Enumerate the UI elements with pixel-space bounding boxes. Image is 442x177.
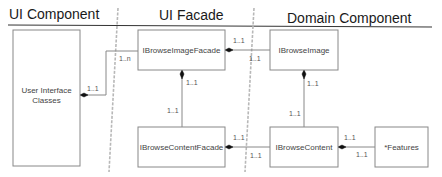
header-ui-facade: UI Facade — [159, 7, 224, 23]
node-label: *Features — [384, 143, 419, 152]
multiplicity-label: 1..1 — [233, 134, 245, 141]
multiplicity-label: 1..1 — [87, 85, 99, 92]
multiplicity-label: 1..1 — [344, 134, 356, 141]
layer-divider-left — [109, 8, 118, 172]
node-ibrowse-image[interactable]: IBrowseImage — [270, 30, 338, 70]
header-ui-component: UI Component — [9, 6, 99, 22]
multiplicity-label: 1..1 — [289, 110, 301, 117]
multiplicity-label: 1..1 — [356, 151, 368, 158]
node-ibrowse-content[interactable]: IBrowseContent — [270, 127, 338, 167]
node-ibrowse-image-facade[interactable]: IBrowseImageFacade — [138, 30, 225, 70]
multiplicity-label: 1..1 — [249, 55, 261, 62]
multiplicity-label: 1..n — [119, 55, 131, 62]
multiplicity-label: 1..1 — [233, 37, 245, 44]
node-label-line2: Classes — [32, 96, 60, 105]
multiplicity-label: 1..1 — [250, 152, 262, 159]
multiplicity-label: 1..1 — [186, 79, 198, 86]
node-user-interface-classes[interactable]: User Interface Classes — [13, 30, 80, 166]
composition-diamond-icon — [180, 70, 184, 79]
composition-diamond-icon — [80, 93, 88, 97]
node-ibrowse-content-facade[interactable]: IBrowseContentFacade — [138, 127, 225, 167]
multiplicity-label: 1..1 — [307, 80, 319, 87]
multiplicity-label: 1..1 — [167, 107, 179, 114]
composition-diamond-icon — [225, 145, 233, 149]
composition-diamond-icon — [302, 70, 306, 79]
node-features[interactable]: *Features — [375, 127, 428, 167]
node-label: IBrowseContentFacade — [140, 143, 224, 152]
node-label: IBrowseImage — [278, 46, 330, 55]
node-label: IBrowseImageFacade — [143, 46, 221, 55]
node-label-line1: User Interface — [21, 86, 72, 95]
composition-diamond-icon — [338, 145, 346, 149]
node-label: IBrowseContent — [276, 143, 334, 152]
composition-diamond-icon — [225, 48, 233, 52]
layer-diagram: UI Component UI Facade Domain Component … — [0, 0, 442, 177]
header-domain-component: Domain Component — [287, 10, 412, 26]
